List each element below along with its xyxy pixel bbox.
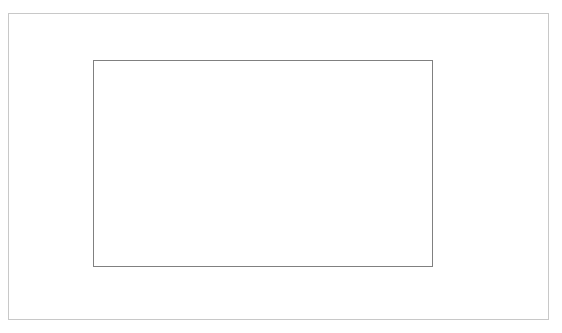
plot-area-border [94,61,433,267]
probability-plot-screenshot [0,0,562,333]
plot-box [94,61,433,267]
normal-probability-plot [0,0,562,333]
